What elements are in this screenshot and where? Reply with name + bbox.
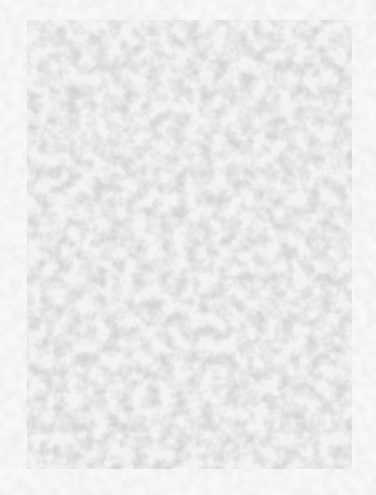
paper-texture-panel (27, 20, 352, 469)
texture-canvas (0, 0, 376, 495)
